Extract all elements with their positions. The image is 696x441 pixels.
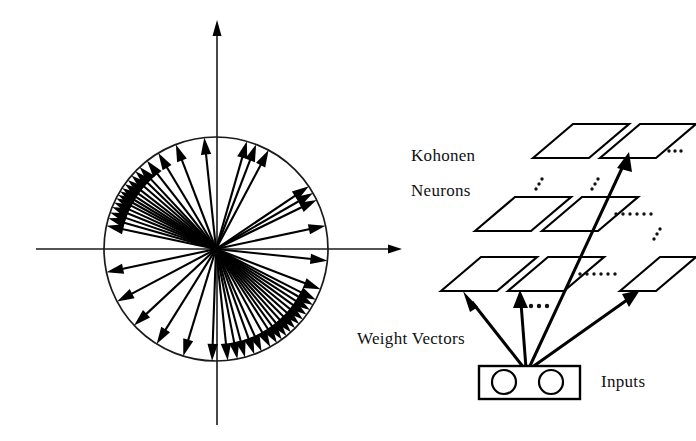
weight-vector-shaft <box>212 249 216 350</box>
weight-arrowhead-icon <box>622 290 640 307</box>
weight-vectors-label: Weight Vectors <box>357 329 465 348</box>
weight-arrow <box>472 302 524 368</box>
neuron-cell[interactable] <box>620 257 696 291</box>
input-node[interactable] <box>539 370 563 394</box>
weight-vector-arrowhead-icon <box>201 138 211 155</box>
inter-row-ellipsis-icon <box>534 177 543 190</box>
x-axis-arrowhead-icon <box>388 245 402 254</box>
weight-vector-arrowhead-icon <box>303 278 321 289</box>
weight-vector <box>106 249 216 274</box>
y-axis-arrowhead-icon <box>213 20 222 36</box>
weight-vector-polar-plot <box>36 20 402 425</box>
weight-vector-arrowhead-icon <box>117 289 134 302</box>
weight-vector-arrowhead-icon <box>221 343 231 360</box>
weight-vector-arrowhead-icon <box>308 224 326 234</box>
weight-vector <box>216 224 326 249</box>
weight-arrowhead-icon <box>513 290 528 308</box>
weight-vector-arrowhead-icon <box>256 150 269 167</box>
input-layer <box>479 366 580 399</box>
row-top-trailing-ellipsis-icon <box>667 149 682 152</box>
row-bottom-lower-ellipsis-icon <box>529 304 549 308</box>
neurons-label: Neurons <box>411 181 471 200</box>
kohonen-row-top <box>533 124 696 158</box>
kohonen-figure-svg: Kohonen Neurons Weight Vectors Inputs <box>0 0 696 441</box>
weight-vector-arrowhead-icon <box>310 254 327 264</box>
weight-vector-shaft <box>117 249 216 270</box>
weight-vector-arrowhead-icon <box>183 338 193 356</box>
kohonen-network-diagram <box>441 124 696 399</box>
kohonen-label: Kohonen <box>411 146 476 165</box>
kohonen-row-middle <box>475 197 653 231</box>
weight-vector-arrowhead-icon <box>158 153 171 170</box>
weight-vector-arrowhead-icon <box>106 264 124 274</box>
inter-row-ellipsis-icon <box>590 177 599 190</box>
weight-vector-arrowhead-icon <box>176 144 187 162</box>
figure-root: Kohonen Neurons Weight Vectors Inputs <box>0 0 696 441</box>
weight-vector-arrowhead-icon <box>106 224 124 234</box>
weight-vector-arrowhead-icon <box>157 327 170 344</box>
inputs-label: Inputs <box>601 372 645 391</box>
inter-row-ellipsis-icon <box>652 227 661 240</box>
weight-vector-arrowhead-icon <box>237 141 247 159</box>
input-node[interactable] <box>492 370 516 394</box>
weight-arrow <box>521 303 526 368</box>
